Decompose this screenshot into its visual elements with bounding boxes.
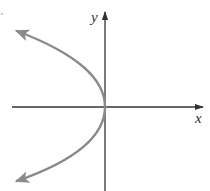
parabola-graph: y x [0, 0, 210, 191]
parabola-upper-branch [17, 31, 105, 107]
x-axis-label: x [194, 110, 202, 126]
parabola-lower-branch [17, 107, 105, 181]
y-axis-label: y [89, 9, 98, 25]
artifact-dot [1, 13, 3, 15]
